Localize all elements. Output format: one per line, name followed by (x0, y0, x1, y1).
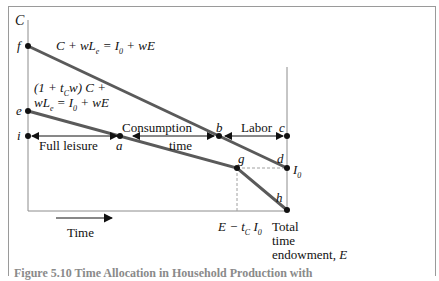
consumption-label-line1: Consumption (122, 121, 192, 135)
full-leisure-label: Full leisure (39, 139, 98, 153)
point-f (25, 43, 31, 49)
consumption-label-line2: time (169, 139, 192, 153)
label-c: c (279, 121, 285, 135)
endowment-label-line3: endowment, E (272, 248, 347, 262)
figure-caption: Figure 5.10 Time Allocation in Household… (14, 266, 312, 281)
point-i (25, 133, 31, 139)
equation-upper: C + wLe = I0 + wE (56, 39, 155, 59)
equation-lower-line2: wLe = I0 + wE (34, 96, 109, 116)
income-label: I0 (293, 163, 301, 183)
label-g: g (238, 152, 245, 166)
label-h: h (276, 191, 283, 205)
label-d: d (277, 152, 284, 166)
label-i: i (17, 129, 21, 143)
time-label: Time (67, 226, 94, 240)
label-a: a (116, 139, 123, 153)
point-h (284, 207, 290, 213)
labor-label: Labor (241, 121, 272, 135)
x-marker-label: E − tC I0 (218, 220, 262, 240)
label-b: b (216, 121, 223, 135)
label-e: e (16, 104, 22, 118)
point-d (284, 165, 290, 171)
endowment-label-line1: Total (272, 220, 299, 234)
endowment-label-line2: time (272, 234, 295, 248)
point-e (25, 108, 31, 114)
label-f: f (17, 39, 21, 53)
y-axis-label: C (15, 14, 24, 28)
